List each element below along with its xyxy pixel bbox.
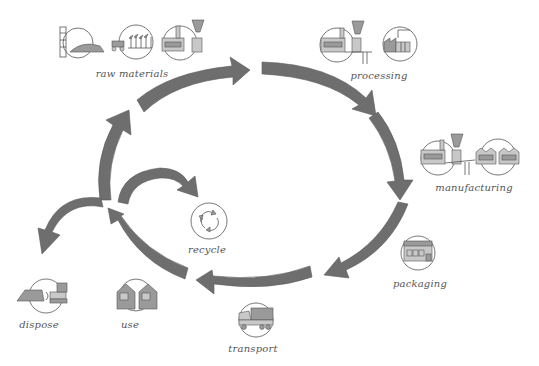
- arrow-manufacturing-to-packaging: [369, 112, 413, 200]
- label-transport: transport: [228, 343, 277, 354]
- manufacturing-factory-icon: [421, 134, 519, 175]
- label-use: use: [121, 319, 139, 330]
- label-packaging: packaging: [393, 278, 447, 289]
- label-recycle: recycle: [188, 244, 226, 255]
- landfill-bulldozer-icon: [17, 279, 67, 313]
- arrow-use-to-junction: [108, 208, 188, 279]
- arrow-junction-to-dispose: [38, 197, 103, 254]
- life-cycle-diagram: raw materials processing manufacturing p…: [0, 0, 539, 366]
- packaging-warehouse-icon: [401, 236, 435, 270]
- recycle-icon: [191, 203, 227, 239]
- processing-plant-icon: [320, 21, 417, 64]
- arrow-raw-to-processing: [137, 57, 250, 112]
- label-manufacturing: manufacturing: [435, 182, 512, 193]
- houses-icon: [117, 279, 157, 311]
- label-raw-materials: raw materials: [96, 68, 169, 79]
- mine-farm-factory-icon: [60, 20, 204, 60]
- truck-icon: [239, 303, 273, 337]
- arrow-transport-to-use: [196, 266, 312, 294]
- label-processing: processing: [350, 70, 407, 81]
- arrow-junction-to-recycle: [118, 168, 198, 204]
- arrow-packaging-to-transport: [324, 202, 408, 278]
- label-dispose: dispose: [19, 319, 59, 330]
